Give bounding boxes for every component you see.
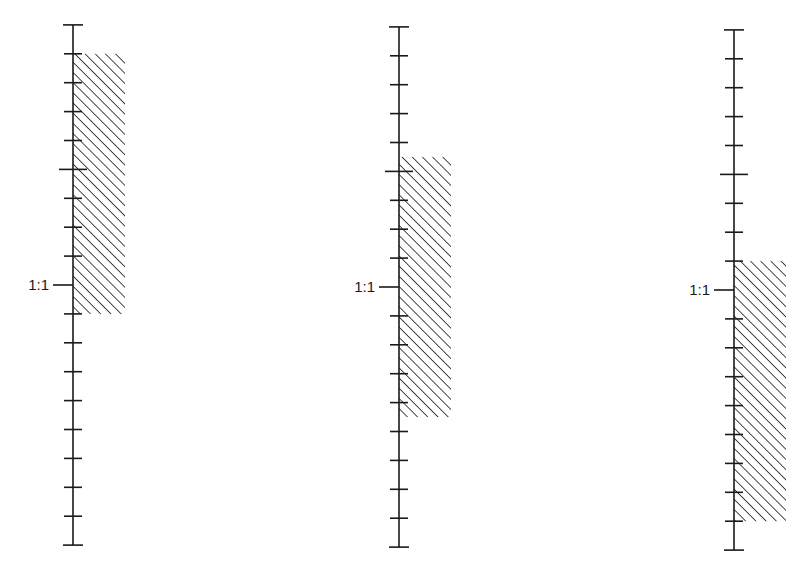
- ratio-scale-3: 1:1: [689, 30, 786, 550]
- one-to-one-label: 1:1: [28, 276, 49, 293]
- diagram-canvas: 1:1 1:1 1:1: [0, 0, 804, 569]
- one-to-one-label: 1:1: [354, 278, 375, 295]
- hatched-range-bar: [73, 54, 125, 314]
- hatched-range-bar: [734, 261, 786, 521]
- one-to-one-label: 1:1: [689, 281, 710, 298]
- hatched-range-bar: [399, 157, 451, 417]
- ratio-scale-1: 1:1: [28, 25, 125, 545]
- ratio-scale-2: 1:1: [354, 27, 451, 547]
